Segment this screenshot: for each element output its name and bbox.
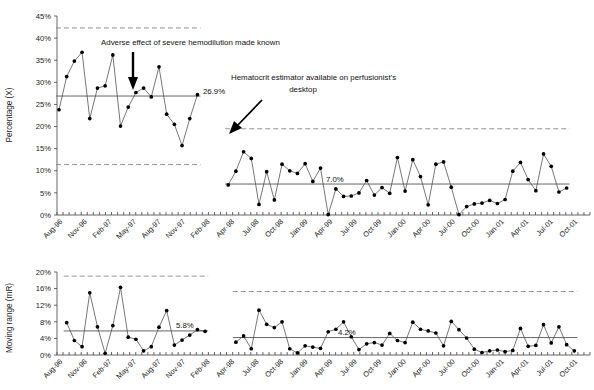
y-tick-label: 15%: [36, 144, 51, 153]
data-point: [180, 144, 184, 148]
data-point: [519, 161, 523, 165]
x-tick-label: May-97: [114, 357, 138, 381]
data-point: [142, 86, 146, 90]
data-point: [134, 337, 138, 341]
data-point: [65, 75, 69, 79]
annotation-hematocrit-estimator: Hematocrit estimator available on perfus…: [229, 73, 396, 134]
data-point: [342, 195, 346, 199]
data-point: [196, 328, 200, 332]
x-tick-label: Jan-99: [287, 217, 309, 239]
y-tick-label: 35%: [36, 56, 51, 65]
data-point: [426, 329, 430, 333]
mr-phase2-center-label: 4.2%: [338, 328, 356, 337]
x-tick-label: Jan-01: [483, 357, 505, 379]
x-tick-label: Oct-98: [263, 357, 285, 379]
data-point: [488, 199, 492, 203]
x-tick-label: Oct-98: [263, 217, 285, 239]
x-tick-label: Jan-00: [385, 217, 407, 239]
data-point: [188, 333, 192, 337]
y-tick-label: 40%: [36, 34, 51, 43]
x-tick-label: Jul-00: [436, 357, 457, 378]
data-point: [434, 162, 438, 166]
data-point: [96, 325, 100, 329]
data-point: [111, 324, 115, 328]
data-point: [103, 351, 107, 355]
x-tick-label: Apr-99: [312, 357, 334, 379]
data-point: [488, 349, 492, 353]
data-point: [196, 93, 200, 97]
data-point: [88, 117, 92, 121]
x-tick-label: May-97: [114, 217, 138, 241]
data-point: [273, 198, 277, 202]
annotation-hematocrit-line1: Hematocrit estimator available on perfus…: [231, 73, 396, 82]
data-point: [319, 166, 323, 170]
x-tick-label: Feb-97: [90, 217, 113, 240]
data-point: [80, 50, 84, 54]
x-tick-label: Nov-96: [66, 357, 89, 380]
x-tick-label: Apr-98: [214, 217, 236, 239]
data-point: [126, 335, 130, 339]
x-tick-label: Apr-98: [214, 357, 236, 379]
annotation-hematocrit-line2: desktop: [289, 85, 317, 94]
data-point: [457, 213, 461, 217]
data-point: [119, 124, 123, 128]
data-point: [157, 325, 161, 329]
y-tick-label: 0%: [40, 351, 51, 360]
data-point: [149, 345, 153, 349]
y-tick-label: 45%: [36, 12, 51, 21]
x-tick-label: Feb-97: [90, 357, 113, 380]
x-tick-label: Jul-99: [338, 217, 359, 238]
data-point: [249, 157, 253, 161]
individuals-y-axis-label: Percentage (X): [5, 87, 14, 142]
data-point: [549, 341, 553, 345]
x-tick-label: Apr-01: [508, 217, 530, 239]
x-tick-label: Oct-00: [459, 217, 481, 239]
data-point: [288, 169, 292, 173]
x-tick-label: Jan-99: [287, 357, 309, 379]
data-point: [57, 108, 61, 112]
data-point: [472, 202, 476, 206]
data-point: [203, 330, 207, 334]
y-tick-label: 10%: [36, 166, 51, 175]
x-tick-label: Jul-99: [338, 357, 359, 378]
data-point: [296, 172, 300, 176]
data-point: [326, 213, 330, 217]
data-point: [73, 339, 77, 343]
x-tick-label: Oct-99: [361, 217, 383, 239]
data-point: [557, 325, 561, 329]
data-point: [173, 343, 177, 347]
mr-data-series: [65, 286, 576, 356]
data-point: [480, 201, 484, 205]
data-point: [342, 320, 346, 324]
data-point: [234, 169, 238, 173]
individuals-x-tick-labels: Aug-96Nov-96Feb-97May-97Aug-97Nov-97Feb-…: [41, 217, 579, 241]
data-point: [472, 347, 476, 351]
data-point: [103, 84, 107, 88]
data-point: [165, 112, 169, 116]
data-point: [311, 345, 315, 349]
data-point: [134, 91, 138, 95]
moving-range-chart: Moving range (mR) 0%4%8%12%16%20% 5.8% 4…: [5, 268, 590, 381]
data-point: [288, 347, 292, 351]
data-point: [96, 86, 100, 90]
mr-phase1-center-label: 5.8%: [176, 321, 194, 330]
data-point: [365, 342, 369, 346]
data-point: [465, 205, 469, 209]
data-point: [165, 309, 169, 313]
data-point: [496, 202, 500, 206]
y-tick-label: 25%: [36, 100, 51, 109]
x-tick-label: Nov-97: [164, 357, 187, 380]
data-point: [326, 330, 330, 334]
x-tick-label: Oct-01: [557, 357, 579, 379]
control-chart-svg: Percentage (X) 0%5%10%15%20%25%30%35%40%…: [0, 0, 594, 390]
data-point: [257, 203, 261, 207]
data-point: [480, 351, 484, 355]
y-tick-label: 20%: [36, 122, 51, 131]
y-tick-label: 20%: [36, 268, 51, 277]
x-tick-label: Aug-96: [41, 357, 64, 380]
x-tick-label: Oct-99: [361, 357, 383, 379]
data-point: [511, 349, 515, 353]
data-point: [234, 340, 238, 344]
data-point: [419, 327, 423, 331]
data-point: [534, 344, 538, 348]
